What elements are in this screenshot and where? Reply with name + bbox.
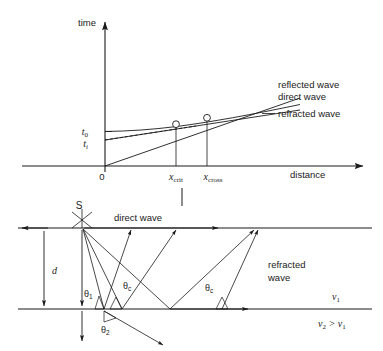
refracted-wave-curve bbox=[105, 110, 300, 140]
refracted-wave-label: refracted wave bbox=[278, 108, 340, 119]
xcross-intersection-marker bbox=[204, 114, 211, 121]
direct-wave-label: direct wave bbox=[278, 91, 326, 102]
xcrit-tick-label: xcrit bbox=[168, 171, 183, 184]
origin-label: 0 bbox=[99, 171, 104, 182]
reflected-ray-up-3 bbox=[170, 230, 254, 309]
downgoing-ray-3 bbox=[83, 229, 170, 309]
xcross-tick-label: xcross bbox=[203, 171, 223, 184]
travel-time-plot: time distance 0 t0 ti xcrit bbox=[22, 17, 363, 184]
xcrit-intersection-marker bbox=[173, 121, 180, 128]
thetac-right-label: θc bbox=[205, 283, 214, 294]
ray-path-diagram: S direct wave d θc bbox=[18, 200, 372, 345]
seismic-refraction-figure: time distance 0 t0 ti xcrit bbox=[0, 0, 383, 351]
lower-layer-velocity-label: v2 > v1 bbox=[318, 318, 346, 331]
refracted-wave-label-lower-line1: refracted bbox=[268, 259, 306, 270]
distance-axis-label: distance bbox=[290, 169, 325, 180]
reflected-wave-label: reflected wave bbox=[278, 79, 339, 90]
thetac-right-marker bbox=[216, 297, 228, 309]
thetac-left-label: θc bbox=[123, 281, 132, 292]
refracted-wave-label-lower-line2: wave bbox=[267, 272, 290, 283]
depth-label: d bbox=[52, 265, 58, 276]
upper-layer-velocity-label: v1 bbox=[332, 291, 340, 304]
direct-wave-curve bbox=[105, 98, 300, 166]
reflected-ray-up-2 bbox=[122, 230, 176, 309]
thetac-left-marker bbox=[110, 297, 122, 309]
theta2-label: θ2 bbox=[101, 325, 110, 336]
time-axis-label: time bbox=[78, 17, 96, 28]
theta1-label: θ1 bbox=[84, 289, 93, 300]
direct-wave-label-lower: direct wave bbox=[114, 212, 162, 223]
head-wave-emergent-ray bbox=[222, 230, 258, 309]
ti-tick-label: ti bbox=[83, 138, 88, 151]
source-label: S bbox=[76, 200, 83, 211]
source-marker bbox=[72, 209, 92, 228]
